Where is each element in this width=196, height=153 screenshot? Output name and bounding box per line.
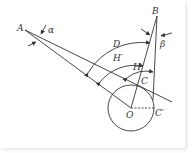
alpha-arrow-bottom xyxy=(28,42,36,46)
beta-arrow-right xyxy=(161,33,172,36)
label-c-prime: C′ xyxy=(155,108,164,118)
alpha-arrow-top xyxy=(41,25,46,34)
label-beta: β xyxy=(159,39,165,49)
geometry-diagram: A α B β D H′ H C O C′ xyxy=(0,0,196,153)
label-alpha: α xyxy=(48,25,54,35)
label-a: A xyxy=(16,23,24,33)
beta-arrow-left xyxy=(141,29,150,35)
label-h-prime: H′ xyxy=(112,53,123,63)
label-b: B xyxy=(151,6,159,16)
label-h: H xyxy=(132,62,141,72)
label-c: C xyxy=(141,76,148,86)
label-d: D xyxy=(112,39,120,49)
label-o: O xyxy=(126,110,134,120)
